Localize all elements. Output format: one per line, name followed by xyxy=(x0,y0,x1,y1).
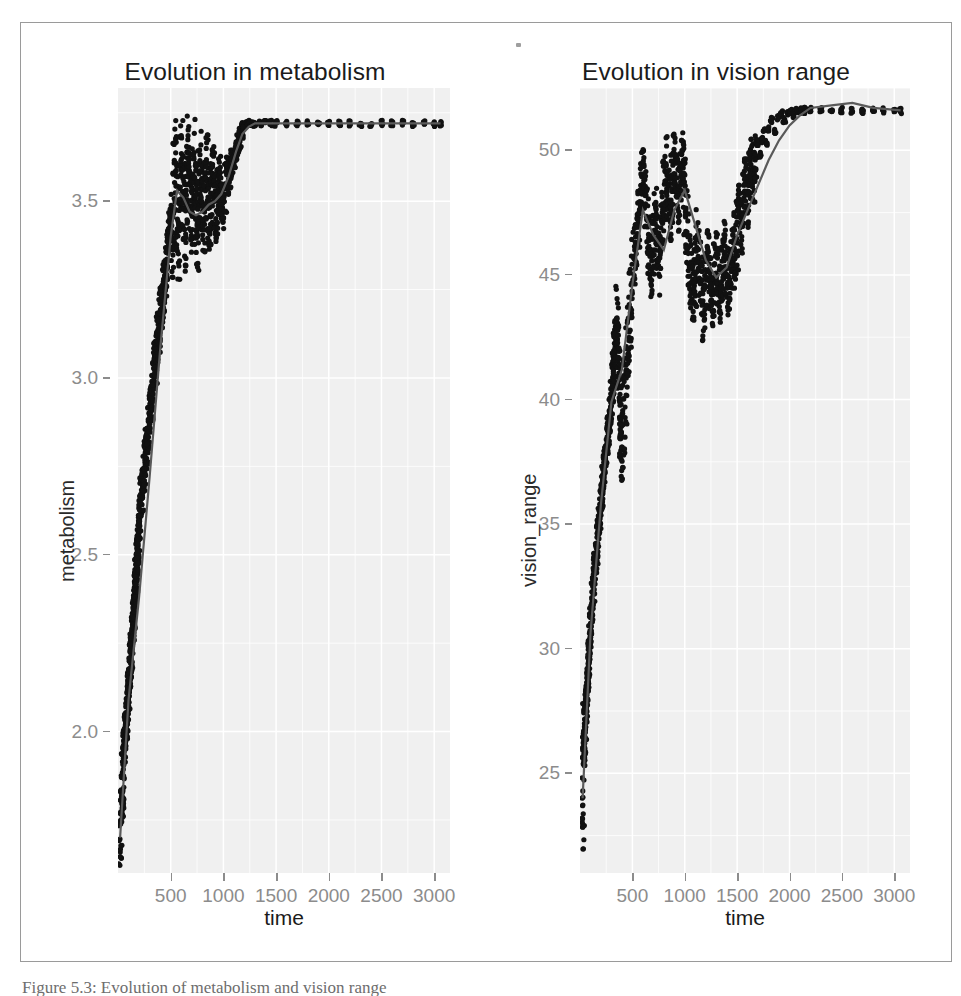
y-tick-label: 40 xyxy=(539,390,560,409)
y-tick-mark xyxy=(565,149,572,151)
y-tick-mark xyxy=(565,648,572,650)
y-tick-mark xyxy=(103,554,110,556)
y-tick-mark xyxy=(103,377,110,379)
x-tick-mark xyxy=(632,873,634,881)
x-tick-label: 1000 xyxy=(202,885,244,907)
y-tick-mark xyxy=(565,523,572,525)
x-tick-mark xyxy=(685,873,687,881)
figure-container: Evolution in metabolism 2.02.53.03.5 met… xyxy=(20,22,952,962)
y-tick-label: 45 xyxy=(539,265,560,284)
x-tick-mark xyxy=(894,873,896,881)
x-axis-label-metabolism: time xyxy=(118,906,450,930)
y-tick-mark xyxy=(565,274,572,276)
x-tick-label: 500 xyxy=(155,885,187,907)
y-tick-label: 30 xyxy=(539,639,560,658)
y-axis-label-metabolism: metabolism xyxy=(56,480,79,582)
y-tick-label: 3.5 xyxy=(72,191,98,210)
y-tick-label: 3.0 xyxy=(72,368,98,387)
y-tick-label: 25 xyxy=(539,763,560,782)
plot-area-metabolism xyxy=(118,88,450,873)
chart-title-metabolism: Evolution in metabolism xyxy=(30,58,480,86)
x-tick-mark xyxy=(790,873,792,881)
figure-caption: Figure 5.3: Evolution of metabolism and … xyxy=(22,978,622,996)
x-tick-label: 1500 xyxy=(255,885,297,907)
x-tick-label: 3000 xyxy=(873,885,915,907)
plot-area-vision-range xyxy=(580,88,910,873)
scatter-svg-metabolism xyxy=(118,88,450,873)
x-tick-label: 2000 xyxy=(768,885,810,907)
x-tick-label: 2500 xyxy=(360,885,402,907)
y-tick-label: 50 xyxy=(539,140,560,159)
y-axis-label-vision-range: vision_range xyxy=(518,474,541,587)
y-tick-mark xyxy=(565,399,572,401)
x-tick-label: 1500 xyxy=(716,885,758,907)
scatter-svg-vision-range xyxy=(580,88,910,873)
y-tick-label: 2.0 xyxy=(72,722,98,741)
x-tick-mark xyxy=(381,873,383,881)
chart-panel-vision-range: Evolution in vision range 253035404550 v… xyxy=(490,22,942,962)
x-tick-mark xyxy=(329,873,331,881)
x-tick-mark xyxy=(737,873,739,881)
x-tick-label: 3000 xyxy=(413,885,455,907)
y-tick-mark xyxy=(103,731,110,733)
x-tick-mark xyxy=(842,873,844,881)
x-tick-mark xyxy=(434,873,436,881)
chart-title-vision-range: Evolution in vision range xyxy=(490,58,942,86)
x-axis-label-vision-range: time xyxy=(580,906,910,930)
x-tick-mark xyxy=(276,873,278,881)
y-tick-mark xyxy=(103,200,110,202)
x-tick-mark xyxy=(171,873,173,881)
y-tick-mark xyxy=(565,772,572,774)
y-tick-label: 35 xyxy=(539,514,560,533)
chart-panel-metabolism: Evolution in metabolism 2.02.53.03.5 met… xyxy=(30,22,480,962)
x-tick-label: 2500 xyxy=(821,885,863,907)
x-tick-label: 2000 xyxy=(308,885,350,907)
x-tick-label: 500 xyxy=(617,885,649,907)
x-tick-mark xyxy=(223,873,225,881)
x-tick-label: 1000 xyxy=(664,885,706,907)
